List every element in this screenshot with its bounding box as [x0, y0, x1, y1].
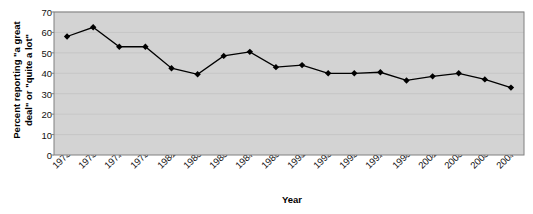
x-axis-title: Year	[244, 194, 340, 205]
line-chart: Percent reporting "a great deal" or "qui…	[0, 0, 533, 214]
plot-area	[0, 0, 533, 214]
plot-background	[54, 12, 524, 155]
